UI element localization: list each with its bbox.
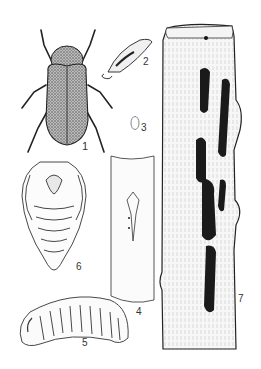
wood-galleries xyxy=(160,24,241,349)
egg xyxy=(131,117,139,130)
label-3: 3 xyxy=(141,122,147,133)
twig-segment xyxy=(111,156,154,302)
label-7: 7 xyxy=(238,293,244,304)
illustration-plate: 1 2 3 4 6 5 xyxy=(0,0,261,369)
label-4: 4 xyxy=(136,306,142,317)
adult-beetle xyxy=(22,30,112,152)
label-5: 5 xyxy=(82,337,88,348)
label-6: 6 xyxy=(76,261,82,272)
larva xyxy=(20,297,128,346)
label-1: 1 xyxy=(82,140,88,152)
label-2: 2 xyxy=(143,56,149,67)
pupa xyxy=(22,162,86,270)
plate-drawing: 1 2 3 4 6 5 xyxy=(0,0,261,369)
